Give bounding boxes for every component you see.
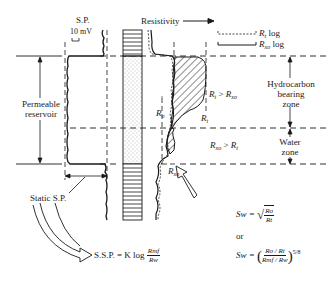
sw-ratio-equation: Sw = ( Ro / Rt Rmf / Rw )5/8 <box>236 247 300 264</box>
sw-sqrt-equation: Sw = √ Ro Rt <box>236 205 274 224</box>
resistivity-curve-rt <box>148 30 173 220</box>
permeable-label-line2: reservoir <box>18 109 64 119</box>
legend-rxo: Rxo log <box>259 39 284 52</box>
sp-track-label: S.P. <box>76 15 90 25</box>
static-sp-label: Static S.P. <box>30 193 66 203</box>
or-label: or <box>236 231 244 241</box>
water-zone-label: Water zone <box>270 137 310 157</box>
resistivity-arrow <box>183 19 214 24</box>
ssp-equation: S.S.P. = K log Rmf Rw <box>94 247 160 264</box>
permeable-label-line1: Permeable <box>18 99 64 109</box>
scale-bar <box>72 38 79 41</box>
sp-track-lines <box>65 30 107 180</box>
ro-label: Ro <box>156 108 165 121</box>
sw-ratio-lhs: Sw = <box>236 250 255 260</box>
water-line2: zone <box>270 147 310 157</box>
sw-ratio-exponent: 5/8 <box>293 249 301 255</box>
water-hatch <box>167 128 175 154</box>
water-condition: Rxo > Rt <box>210 140 238 153</box>
legend-rxo-suffix: log <box>272 39 284 49</box>
sp-curve <box>67 30 107 220</box>
ssp-lhs: S.S.P. = K log <box>94 250 145 260</box>
sw-ratio-fraction: Ro / Rt Rmf / Rw <box>262 247 288 264</box>
legend-rxo-sub: xo <box>265 44 271 50</box>
sp-scale-label: 10 mV <box>70 27 92 37</box>
hydrocarbon-condition: Rt > Rxo <box>209 89 237 102</box>
water-line1: Water <box>270 137 310 147</box>
ssp-curved-arrow <box>33 203 92 262</box>
rxo-label: Rxo <box>168 166 179 179</box>
resistivity-track-label: Resistivity <box>141 16 180 26</box>
hydrocarbon-line3: zone <box>262 99 320 109</box>
hydrocarbon-zone-label: Hydrocarbon bearing zone <box>262 79 320 109</box>
legend-rxo-line <box>218 42 256 45</box>
ssp-fraction: Rmf Rw <box>147 247 160 264</box>
static-sp-arrow <box>65 174 107 193</box>
permeable-reservoir-label: Permeable reservoir <box>18 99 64 119</box>
borehole-column <box>123 30 142 220</box>
hydrocarbon-line2: bearing <box>262 89 320 99</box>
sw-lhs: Sw = <box>236 209 255 219</box>
legend-rt-suffix: log <box>268 28 280 38</box>
sw-sqrt-fraction: Ro Rt <box>264 205 274 224</box>
legend-rt-line <box>218 31 256 34</box>
rt-label: Rt <box>201 113 208 126</box>
hydrocarbon-line1: Hydrocarbon <box>262 79 320 89</box>
